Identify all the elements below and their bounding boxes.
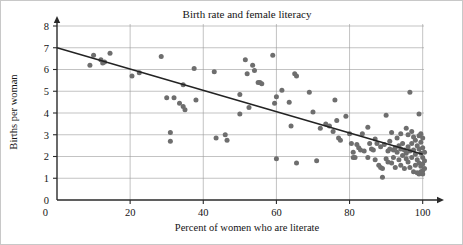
chart-figure: 012345678 020406080100 Birth rate and fe… — [0, 0, 463, 245]
x-tick-label-60: 60 — [271, 207, 282, 218]
data-points-group — [87, 51, 427, 180]
data-point — [400, 141, 405, 146]
data-point — [387, 139, 392, 144]
data-point — [398, 131, 403, 136]
data-point — [108, 51, 113, 56]
data-point — [418, 131, 423, 136]
data-point — [413, 138, 418, 143]
data-point — [407, 165, 412, 170]
data-point — [294, 161, 299, 166]
x-axis-label: Percent of women who are literate — [175, 222, 320, 233]
data-point — [245, 71, 250, 76]
data-point — [225, 138, 230, 143]
data-point — [371, 147, 376, 152]
x-tick-label-80: 80 — [344, 207, 355, 218]
data-point — [252, 68, 257, 73]
data-point — [417, 112, 422, 117]
data-point — [250, 63, 255, 68]
data-point — [404, 126, 409, 131]
y-tick-label-4: 4 — [44, 108, 50, 119]
data-point — [243, 57, 248, 62]
data-point — [237, 92, 242, 97]
data-point — [391, 155, 396, 160]
x-axis-ticks: 020406080100 — [43, 200, 431, 218]
figure-border — [1, 1, 463, 245]
y-axis-label: Births per woman — [8, 74, 19, 150]
data-point — [331, 129, 336, 134]
data-point — [351, 150, 356, 155]
y-tick-label-8: 8 — [44, 21, 49, 32]
data-point — [360, 131, 365, 136]
data-point — [307, 90, 312, 95]
data-point — [420, 136, 425, 141]
data-point — [168, 130, 173, 135]
data-point — [380, 175, 385, 180]
data-point — [274, 156, 279, 161]
data-point — [87, 63, 92, 68]
data-point — [289, 124, 294, 129]
y-tick-label-3: 3 — [44, 130, 49, 141]
data-point — [310, 109, 315, 114]
chart-title: Birth rate and female literacy — [183, 8, 312, 20]
data-point — [365, 155, 370, 160]
data-point — [272, 101, 277, 106]
data-point — [396, 157, 401, 162]
data-point — [418, 140, 423, 145]
data-point — [362, 149, 367, 154]
data-point — [91, 53, 96, 58]
data-point — [237, 112, 242, 117]
data-point — [389, 161, 394, 166]
data-point — [168, 139, 173, 144]
data-point — [246, 105, 251, 110]
data-point — [334, 118, 339, 123]
data-point — [407, 90, 412, 95]
data-point — [367, 141, 372, 146]
data-point — [389, 130, 394, 135]
data-point — [212, 69, 217, 74]
data-point — [318, 126, 323, 131]
data-point — [395, 136, 400, 141]
data-point — [182, 107, 187, 112]
data-point — [223, 132, 228, 137]
data-point — [380, 166, 385, 171]
y-axis-ticks: 012345678 — [44, 21, 57, 206]
data-point — [159, 54, 164, 59]
data-point — [343, 114, 348, 119]
x-axis-arrow — [437, 197, 444, 203]
data-point — [287, 100, 292, 105]
data-point — [164, 95, 169, 100]
x-tick-label-20: 20 — [125, 207, 136, 218]
y-axis-arrow — [54, 16, 60, 23]
data-point — [129, 74, 134, 79]
y-tick-label-6: 6 — [44, 64, 49, 75]
data-point — [406, 159, 411, 164]
data-point — [314, 158, 319, 163]
data-point — [172, 95, 177, 100]
y-tick-label-2: 2 — [44, 151, 49, 162]
data-point — [384, 113, 389, 118]
data-point — [353, 155, 358, 160]
data-point — [422, 166, 427, 171]
scatter-plot: 012345678 020406080100 Birth rate and fe… — [0, 0, 463, 245]
data-point — [422, 158, 427, 163]
data-point — [259, 81, 264, 86]
data-point — [365, 125, 370, 130]
data-point — [349, 141, 354, 146]
data-point — [192, 66, 197, 71]
data-point — [393, 165, 398, 170]
data-point — [402, 166, 407, 171]
data-point — [214, 136, 219, 141]
x-tick-label-100: 100 — [415, 207, 431, 218]
data-point — [193, 97, 198, 102]
y-tick-label-0: 0 — [44, 195, 49, 206]
data-point — [332, 97, 337, 102]
data-point — [420, 145, 425, 150]
y-tick-label-5: 5 — [44, 86, 49, 97]
x-tick-label-40: 40 — [198, 207, 209, 218]
data-point — [420, 171, 425, 176]
data-point — [274, 94, 279, 99]
y-tick-label-1: 1 — [44, 173, 49, 184]
data-point — [279, 88, 284, 93]
data-point — [338, 138, 343, 143]
data-point — [406, 132, 411, 137]
